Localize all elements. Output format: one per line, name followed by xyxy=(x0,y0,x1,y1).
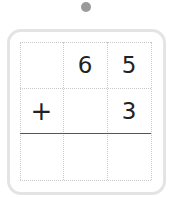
answer-cell-c1[interactable] xyxy=(20,134,63,180)
plus-operator: + xyxy=(20,88,63,133)
answer-cell-c2[interactable] xyxy=(63,134,107,180)
answer-cell-c3[interactable] xyxy=(107,134,151,180)
cell-r1-c2[interactable]: 6 xyxy=(63,42,107,88)
vertical-addition-grid: 6 5 + 3 xyxy=(20,42,151,180)
cell-r1-c3[interactable]: 5 xyxy=(107,42,151,88)
grid-border-right xyxy=(151,42,152,180)
grid-border-bottom xyxy=(20,180,151,181)
indicator-dot xyxy=(81,2,91,12)
cell-r2-c2[interactable] xyxy=(63,88,107,133)
cell-r2-c3[interactable]: 3 xyxy=(107,88,151,133)
cell-r1-c1[interactable] xyxy=(20,42,63,88)
